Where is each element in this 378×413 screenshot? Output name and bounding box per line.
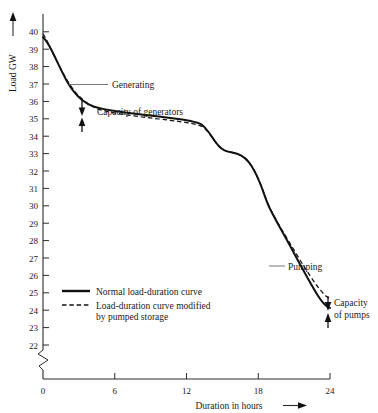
double-arrow-icon [79, 99, 86, 132]
y-tick-label: 28 [29, 236, 39, 246]
x-tick: 12 [182, 373, 191, 396]
y-tick-label: 33 [29, 149, 39, 159]
legend-label-modified-line2: by pumped storage [96, 312, 168, 322]
x-tick: 24 [326, 373, 336, 396]
axis-break-icon [38, 350, 48, 370]
x-tick: 6 [113, 373, 118, 396]
y-tick-label: 25 [29, 288, 39, 298]
double-arrow-icon [325, 296, 332, 328]
legend-entry-normal[interactable]: Normal load-duration curve [62, 287, 202, 297]
annotation-generating: Generating [69, 80, 154, 90]
y-axis-title: Load GW [8, 54, 18, 92]
y-tick: 25 [29, 288, 49, 298]
y-tick: 38 [29, 62, 49, 72]
y-tick: 40 [29, 27, 49, 37]
y-tick: 37 [29, 80, 49, 90]
legend-label-modified-line1: Load-duration curve modified [96, 301, 211, 311]
y-tick: 36 [29, 97, 49, 107]
y-tick-label: 32 [29, 167, 38, 177]
x-tick-label: 6 [113, 386, 118, 396]
y-tick-label: 35 [29, 114, 39, 124]
annotation-pumping: Pumping [269, 262, 323, 272]
y-tick: 27 [29, 254, 49, 264]
y-tick-label: 29 [29, 219, 39, 229]
y-tick: 34 [29, 132, 49, 142]
annotation-generating-label: Generating [112, 80, 154, 90]
y-tick-label: 37 [29, 80, 39, 90]
x-axis-title: Duration in hours [195, 401, 262, 411]
y-tick-label: 31 [29, 184, 38, 194]
y-tick-label: 34 [29, 132, 39, 142]
chart-legend: Normal load-duration curve Load-duration… [62, 287, 211, 322]
y-tick-label: 30 [29, 201, 39, 211]
annotation-capacity-of-generators-label: Capacity of generators [97, 107, 183, 117]
y-tick-label: 40 [29, 27, 39, 37]
y-tick: 30 [29, 201, 49, 211]
y-tick-label: 26 [29, 271, 39, 281]
y-tick: 35 [29, 114, 49, 124]
y-tick-label: 22 [29, 341, 38, 351]
y-axis-title-group: Load GW [8, 12, 18, 92]
y-tick: 29 [29, 219, 49, 229]
y-axis-ticks: 22 23 24 25 26 27 28 29 30 31 32 33 34 3… [29, 27, 49, 350]
x-tick-label: 12 [182, 386, 191, 396]
y-tick: 26 [29, 271, 49, 281]
y-tick: 33 [29, 149, 49, 159]
y-tick: 39 [29, 45, 49, 55]
y-tick: 22 [29, 341, 49, 351]
y-tick: 23 [29, 323, 49, 333]
y-tick-label: 38 [29, 62, 39, 72]
y-tick: 31 [29, 184, 49, 194]
y-tick: 28 [29, 236, 49, 246]
y-tick-label: 23 [29, 323, 39, 333]
annotation-capacity-of-pumps-label-line2: of pumps [334, 310, 370, 320]
x-axis-title-group: Duration in hours [195, 401, 307, 411]
y-tick-label: 24 [29, 306, 39, 316]
right-arrow-icon [283, 402, 307, 409]
x-tick-label: 0 [41, 386, 46, 396]
x-axis-ticks: 0 6 12 18 24 [41, 373, 335, 396]
x-tick: 18 [254, 373, 264, 396]
normal-load-duration-curve [43, 37, 330, 308]
y-tick-label: 27 [29, 254, 39, 264]
y-tick: 32 [29, 167, 49, 177]
modified-load-duration-curve [43, 34, 330, 299]
x-tick-label: 24 [326, 386, 336, 396]
annotation-capacity-of-pumps-label-line1: Capacity [334, 298, 368, 308]
annotation-capacity-of-generators: Capacity of generators [79, 99, 184, 132]
axis-lines [38, 14, 330, 379]
annotation-pumping-label: Pumping [288, 262, 323, 272]
legend-label-normal: Normal load-duration curve [96, 287, 202, 297]
load-duration-chart: Load GW 22 23 24 25 26 27 28 29 30 31 32 [0, 0, 378, 413]
chart-canvas: Load GW 22 23 24 25 26 27 28 29 30 31 32 [0, 0, 378, 413]
legend-entry-modified[interactable]: Load-duration curve modified by pumped s… [62, 301, 211, 322]
y-tick-label: 39 [29, 45, 39, 55]
y-tick: 24 [29, 306, 49, 316]
y-tick-label: 36 [29, 97, 39, 107]
x-tick: 0 [41, 386, 46, 396]
x-tick-label: 18 [254, 386, 264, 396]
up-arrow-icon [10, 12, 17, 36]
annotation-capacity-of-pumps: Capacity of pumps [325, 296, 370, 328]
